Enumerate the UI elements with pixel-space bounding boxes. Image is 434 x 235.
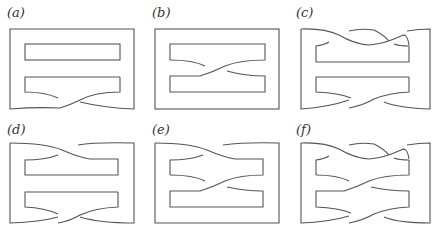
band-diagram-e — [145, 117, 290, 235]
band-diagram-b — [145, 0, 290, 117]
panel-f: (f) — [289, 117, 434, 234]
band-diagram-f — [289, 117, 434, 235]
band-diagram-c — [289, 0, 434, 117]
panel-b: (b) — [145, 0, 290, 117]
panel-c: (c) — [289, 0, 434, 117]
panel-a: (a) — [0, 0, 145, 117]
panel-d: (d) — [0, 117, 145, 234]
band-diagram-a — [0, 0, 145, 117]
band-diagram-d — [0, 117, 145, 235]
panel-e: (e) — [145, 117, 290, 234]
